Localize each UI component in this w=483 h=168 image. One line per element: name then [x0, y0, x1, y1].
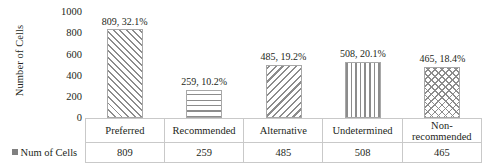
bar-data-label-non-recommended: 465, 18.4% — [419, 54, 465, 64]
table-header-recommended: Recommended — [164, 119, 243, 143]
bar-slot-preferred: 809, 32.1% — [85, 8, 164, 118]
y-tick-600: 600 — [66, 50, 82, 61]
table-header-non-recommended: Non-recommended — [402, 119, 481, 143]
legend-num-of-cells: Num of Cells — [4, 143, 85, 163]
bar-slot-recommended: 259, 10.2% — [164, 8, 243, 118]
y-tick-1000: 1000 — [61, 7, 82, 18]
table-value-non-recommended: 465 — [402, 143, 481, 163]
table-value-preferred: 809 — [85, 143, 164, 163]
table-corner-cell — [4, 119, 85, 143]
bar-data-label-alternative: 485, 19.2% — [261, 52, 307, 62]
table-header-row: Preferred Recommended Alternative Undete… — [4, 119, 482, 143]
table-header-alternative: Alternative — [244, 119, 323, 143]
table-row: Num of Cells 809 259 485 508 465 — [4, 143, 482, 163]
legend-square-icon — [12, 149, 18, 155]
bar-preferred[interactable] — [107, 29, 143, 118]
y-tick-800: 800 — [66, 28, 82, 39]
bar-non-recommended[interactable] — [424, 67, 460, 118]
bar-slot-non-recommended: 465, 18.4% — [403, 8, 482, 118]
bar-series-num-of-cells: 809, 32.1% 259, 10.2% 485, 19.2% 508, 20… — [85, 8, 482, 118]
bar-recommended[interactable] — [186, 90, 222, 118]
bar-data-label-undetermined: 508, 20.1% — [340, 49, 386, 59]
table-value-recommended: 259 — [164, 143, 243, 163]
bar-chart-with-data-table: Number of Cells 1000 800 600 400 200 0 8… — [0, 0, 483, 168]
bar-slot-alternative: 485, 19.2% — [244, 8, 323, 118]
y-tick-400: 400 — [66, 71, 82, 82]
data-table: Preferred Recommended Alternative Undete… — [4, 118, 482, 163]
bar-alternative[interactable] — [266, 65, 302, 118]
bar-undetermined[interactable] — [345, 62, 381, 118]
table-header-undetermined: Undetermined — [323, 119, 402, 143]
y-tick-200: 200 — [66, 92, 82, 103]
bar-data-label-preferred: 809, 32.1% — [102, 17, 148, 27]
plot-area: 809, 32.1% 259, 10.2% 485, 19.2% 508, 20… — [85, 8, 482, 118]
legend-label: Num of Cells — [21, 148, 78, 159]
y-axis-title: Number of Cells — [14, 6, 25, 116]
bar-data-label-recommended: 259, 10.2% — [181, 77, 227, 87]
table-value-undetermined: 508 — [323, 143, 402, 163]
bar-slot-undetermined: 508, 20.1% — [323, 8, 402, 118]
table-value-alternative: 485 — [244, 143, 323, 163]
table-header-preferred: Preferred — [85, 119, 164, 143]
y-axis-tick-labels: 1000 800 600 400 200 0 — [44, 0, 85, 124]
